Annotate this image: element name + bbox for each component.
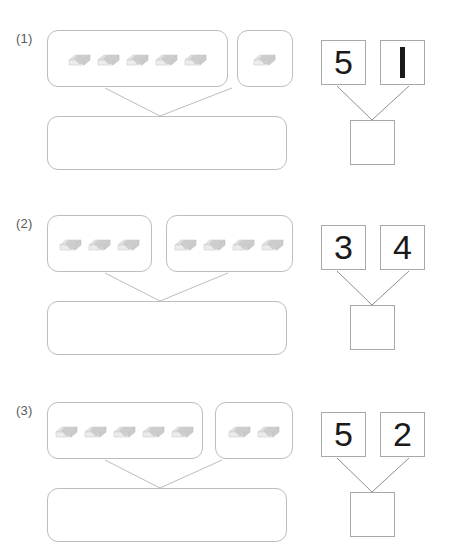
problem-1-right-number-box[interactable]: 1: [380, 40, 425, 85]
problem-2-left-number: 3: [334, 230, 353, 264]
problem-3-right-number: 2: [393, 417, 412, 451]
problem-2: (2): [0, 185, 449, 375]
problem-3-sum-box[interactable]: [350, 492, 395, 537]
problem-1-left-number: 5: [334, 45, 353, 79]
problem-1: (1): [0, 0, 449, 190]
problem-2-right-number-box[interactable]: 4: [380, 225, 425, 270]
problem-1-sum-box[interactable]: [350, 120, 395, 165]
problem-2-right-number: 4: [393, 230, 412, 264]
numeral-one-stroke: [400, 47, 405, 78]
problem-3-right-number-box[interactable]: 2: [380, 412, 425, 457]
problem-2-left-number-box[interactable]: 3: [321, 225, 366, 270]
problem-2-sum-box[interactable]: [350, 305, 395, 350]
worksheet-page: (1): [0, 0, 449, 557]
problem-1-left-number-box[interactable]: 5: [321, 40, 366, 85]
problem-3: (3): [0, 372, 449, 557]
problem-3-left-number: 5: [334, 417, 353, 451]
problem-3-left-number-box[interactable]: 5: [321, 412, 366, 457]
